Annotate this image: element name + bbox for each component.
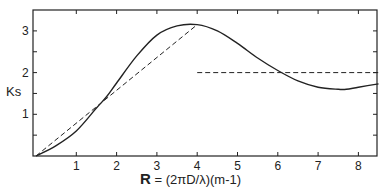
x-axis-label-symbol: R (140, 170, 151, 187)
x-axis-label: R = (2πD/λ)(m-1) (140, 170, 241, 187)
y-tick-label: 1 (22, 107, 29, 121)
y-tick-label: 3 (22, 24, 29, 38)
y-axis-ticks: 123 (22, 24, 377, 135)
x-tick-label: 4 (194, 159, 201, 173)
x-tick-label: 8 (355, 159, 362, 173)
series-lines (36, 24, 379, 156)
dashed-reference-line (36, 25, 197, 156)
y-tick-label: 2 (22, 66, 29, 80)
x-tick-label: 7 (315, 159, 322, 173)
x-tick-label: 1 (73, 159, 80, 173)
y-axis-label: Ks (6, 84, 22, 99)
x-axis-ticks: 12345678 (73, 10, 362, 173)
plot-frame (33, 10, 377, 156)
x-tick-label: 2 (113, 159, 120, 173)
chart: 123 12345678 Ks R = (2πD/λ)(m-1) (0, 0, 383, 189)
x-tick-label: 6 (274, 159, 281, 173)
x-tick-label: 5 (234, 159, 241, 173)
ks-curve (36, 24, 379, 156)
x-axis-label-formula: = (2πD/λ)(m-1) (151, 172, 241, 187)
x-tick-label: 3 (154, 159, 161, 173)
